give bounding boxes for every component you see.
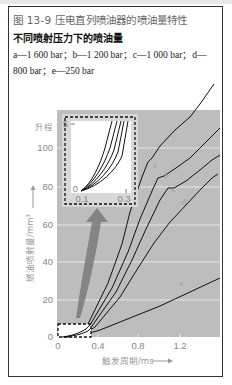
y-tick: 0 [48, 331, 53, 342]
x-axis-arrow-icon [152, 359, 173, 364]
y-tick: 80 [42, 181, 53, 192]
y-tick: 100 [37, 142, 53, 153]
x-tick-labels: 0 0.4 0.8 1.2 [55, 340, 186, 351]
y-tick: 20 [42, 294, 53, 305]
chart: 0 20 40 60 80 100 升程 0 0.4 0.8 1.2 触发周期/… [0, 0, 232, 385]
x-tick: 0.8 [131, 340, 144, 351]
lift-label: 升程 [35, 122, 53, 132]
label-b: b [164, 171, 168, 180]
x-tick: 0 [55, 340, 60, 351]
y-axis-label: 燃油喷射量/mm³ [25, 214, 35, 282]
y-tick-labels: 0 20 40 60 80 100 升程 [35, 122, 53, 342]
inset-x-tick: 0.1 [75, 193, 88, 204]
label-a: a [153, 161, 157, 170]
label-d: d [182, 198, 186, 207]
zoom-region-box [58, 324, 91, 337]
y-tick: 60 [42, 219, 53, 230]
x-tick: 1.2 [173, 340, 186, 351]
inset-chart: 5 0 0.1 0.3 [62, 114, 138, 207]
x-axis-label: 触发周期/ms [102, 356, 154, 366]
inset-x-tick: 0.3 [117, 193, 130, 204]
y-axis-arrow-icon [31, 185, 36, 208]
label-e: e [180, 279, 184, 288]
y-tick: 40 [42, 256, 53, 267]
label-c: c [172, 185, 176, 194]
x-tick: 0.4 [91, 340, 104, 351]
